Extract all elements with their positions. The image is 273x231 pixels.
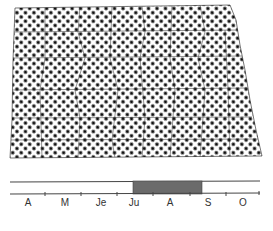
month-label-june: Je bbox=[96, 198, 107, 208]
month-label-september: S bbox=[205, 198, 212, 208]
month-label-october: O bbox=[239, 198, 247, 208]
timeline-bottom-line bbox=[10, 193, 260, 194]
month-label-august: A bbox=[167, 198, 174, 208]
state-map bbox=[0, 0, 273, 170]
month-label-july: Ju bbox=[129, 198, 140, 208]
active-period-bar bbox=[133, 181, 202, 194]
timeline-bar bbox=[0, 176, 273, 196]
month-label-april: A bbox=[25, 198, 32, 208]
month-label-may: M bbox=[61, 198, 69, 208]
seasonal-timeline: A M Je Ju A S O bbox=[0, 176, 273, 216]
